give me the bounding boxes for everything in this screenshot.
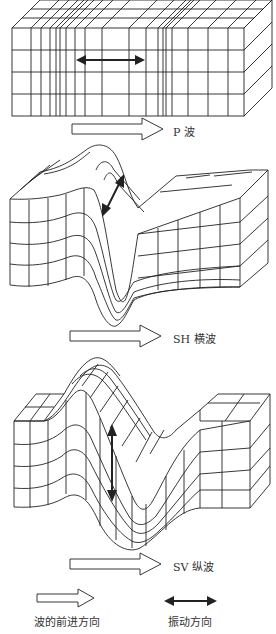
- sh-wave-propagation-arrow: [70, 325, 161, 347]
- legend-vibration-arrow-icon: [164, 596, 217, 606]
- sv-wave-propagation-arrow: [70, 553, 161, 575]
- sh-wave-label: SH 横波: [173, 330, 216, 346]
- p-wave-block: [12, 0, 272, 116]
- p-wave-vibration-arrow: [76, 55, 145, 65]
- sv-wave-label: SV 纵波: [173, 558, 214, 574]
- sh-wave-vibration-arrow: [102, 174, 124, 217]
- p-wave-propagation-arrow: [72, 118, 163, 140]
- p-wave-label: P 波: [173, 123, 195, 139]
- legend-propagation-arrow-icon: [37, 589, 94, 607]
- legend-propagation-label: 波的前进方向: [34, 613, 100, 629]
- sv-wave-block: [14, 358, 270, 550]
- legend-vibration-label: 振动方向: [168, 613, 212, 629]
- sh-wave-block: [10, 145, 268, 326]
- sv-wave-vibration-arrow: [107, 424, 117, 502]
- seismic-wave-diagram: [0, 0, 276, 634]
